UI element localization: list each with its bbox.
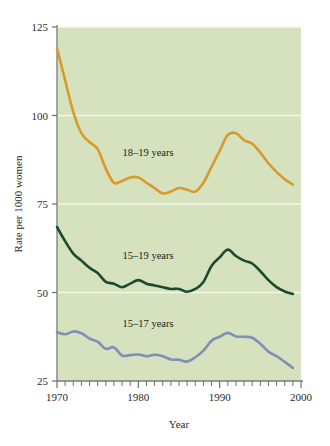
line-chart: 255075100125 1970198019902000 18–19 year… [0, 0, 330, 446]
series-label-18-19 years: 18–19 years [123, 147, 174, 158]
x-tick-label-2000: 2000 [290, 391, 313, 403]
y-tick-label-50: 50 [37, 287, 49, 299]
y-tick-label-125: 125 [32, 21, 49, 33]
series-label-15-17 years: 15–17 years [123, 318, 174, 329]
y-tick-label-25: 25 [37, 375, 49, 387]
x-tick-label-1970: 1970 [46, 391, 69, 403]
x-axis-title: Year [169, 418, 190, 430]
x-tick-label-1980: 1980 [127, 391, 150, 403]
series-label-15-19 years: 15–19 years [123, 250, 174, 261]
x-tick-label-1990: 1990 [209, 391, 232, 403]
y-tick-label-100: 100 [32, 110, 49, 122]
y-axis-title: Rate per 1000 women [12, 155, 24, 252]
y-tick-label-75: 75 [37, 198, 49, 210]
chart-container: 255075100125 1970198019902000 18–19 year… [0, 0, 330, 446]
